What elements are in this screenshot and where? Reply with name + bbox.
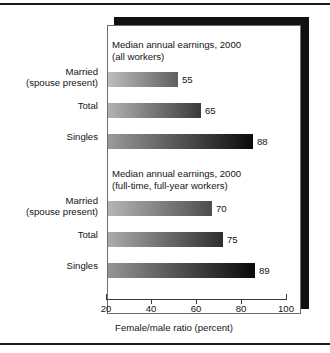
group-caption-fulltime-workers: Median annual earnings, 2000 (full-time,…	[112, 168, 241, 191]
caption-line-2: (all workers)	[112, 51, 241, 63]
x-axis-title-wrap: Female/male ratio (percent)	[0, 322, 330, 333]
x-tick-label-60: 60	[191, 303, 202, 314]
category-line-1: Singles	[67, 260, 98, 271]
x-tick-label-80: 80	[236, 303, 247, 314]
category-label-total-b: Total	[78, 229, 98, 240]
x-tick-label-20: 20	[101, 303, 112, 314]
category-line-1: Married	[26, 66, 98, 77]
bar-value-singles-a: 88	[257, 134, 268, 149]
x-axis-tick-end	[286, 294, 287, 300]
bar-total-a	[108, 103, 201, 118]
category-line-2: (spouse present)	[26, 206, 98, 217]
category-label-married-b: Married (spouse present)	[26, 195, 98, 218]
category-line-2: (spouse present)	[26, 77, 98, 88]
bottom-rule	[0, 343, 330, 345]
bar-married-b	[108, 201, 212, 216]
figure: Median annual earnings, 2000 (all worker…	[0, 0, 330, 353]
x-tick-label-100: 100	[278, 303, 294, 314]
category-label-married-a: Married (spouse present)	[26, 66, 98, 89]
bar-singles-b	[108, 263, 255, 278]
category-line-1: Married	[26, 195, 98, 206]
caption-line-1: Median annual earnings, 2000	[112, 39, 241, 51]
bar-value-married-a: 55	[182, 72, 193, 87]
caption-line-1: Median annual earnings, 2000	[112, 168, 241, 180]
x-axis-tick-start	[106, 294, 107, 300]
category-label-singles-a: Singles	[67, 131, 98, 142]
bar-value-total-a: 65	[205, 103, 216, 118]
category-line-1: Total	[78, 229, 98, 240]
x-axis-title: Female/male ratio (percent)	[115, 322, 233, 333]
category-label-total-a: Total	[78, 100, 98, 111]
bar-total-b	[108, 232, 223, 247]
top-rule	[0, 3, 330, 5]
bar-value-total-b: 75	[227, 232, 238, 247]
group-caption-all-workers: Median annual earnings, 2000 (all worker…	[112, 39, 241, 62]
x-tick-label-40: 40	[146, 303, 157, 314]
bar-married-a	[108, 72, 178, 87]
bar-value-married-b: 70	[216, 201, 227, 216]
category-line-1: Total	[78, 100, 98, 111]
caption-line-2: (full-time, full-year workers)	[112, 180, 241, 192]
bar-singles-a	[108, 134, 253, 149]
category-label-singles-b: Singles	[67, 260, 98, 271]
bar-value-singles-b: 89	[259, 263, 270, 278]
category-line-1: Singles	[67, 131, 98, 142]
